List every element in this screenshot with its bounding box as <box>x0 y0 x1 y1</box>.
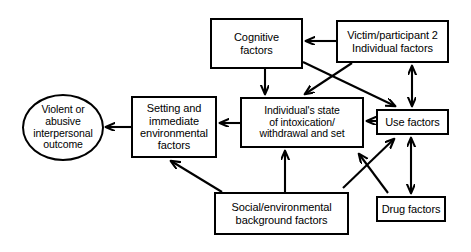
node-drug-factors-label: Drug factors <box>380 203 443 215</box>
node-setting-and-immediate-environmental-factors-label: Setting and immediate environmental fact… <box>138 102 210 151</box>
node-violent-or-abusive-interpersonal-outcome-label: Violent or abusive interpersonal outcome <box>31 104 94 151</box>
node-individual-state-of-intoxication-label: Individual's state of intoxication/ with… <box>257 105 346 140</box>
node-cognitive-factors[interactable]: Cognitive factors <box>210 18 303 69</box>
node-violent-or-abusive-interpersonal-outcome[interactable]: Violent or abusive interpersonal outcome <box>22 94 104 161</box>
node-social-environmental-background-factors-label: Social/environmental background factors <box>229 201 333 226</box>
node-victim-participant-individual-factors[interactable]: Victim/participant 2 Individual factors <box>336 20 449 63</box>
node-use-factors-label: Use factors <box>383 116 442 128</box>
node-individual-state-of-intoxication[interactable]: Individual's state of intoxication/ with… <box>240 97 364 148</box>
edge-victim-to-state <box>305 63 352 94</box>
node-drug-factors[interactable]: Drug factors <box>376 196 446 222</box>
node-victim-participant-individual-factors-label: Victim/participant 2 Individual factors <box>345 29 440 54</box>
edge-social-to-setting <box>171 161 222 192</box>
diagram-canvas: Cognitive factors Victim/participant 2 I… <box>0 0 471 252</box>
node-use-factors[interactable]: Use factors <box>376 109 449 135</box>
node-social-environmental-background-factors[interactable]: Social/environmental background factors <box>214 192 349 235</box>
node-cognitive-factors-label: Cognitive factors <box>232 31 281 56</box>
node-setting-and-immediate-environmental-factors[interactable]: Setting and immediate environmental fact… <box>131 96 217 158</box>
